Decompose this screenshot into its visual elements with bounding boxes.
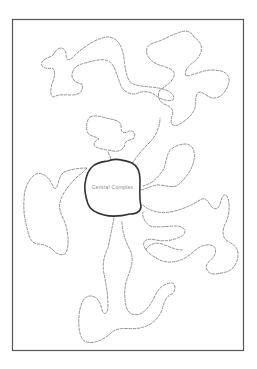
dashed-region-top-left [42,37,174,101]
dashed-region-upper-middle [87,116,135,151]
dashed-region-left [24,168,87,255]
dashed-region-top-right [147,31,230,125]
dashed-region-right-middle [143,195,238,274]
central-complex-label: Central Complex [92,184,134,190]
dashed-connector-top [108,118,160,164]
diagram-canvas: Central Complex [0,0,257,369]
dashed-region-bottom [79,218,175,343]
dashed-region-right-upper [141,144,195,190]
dashed-region-bottom-right [146,243,182,250]
